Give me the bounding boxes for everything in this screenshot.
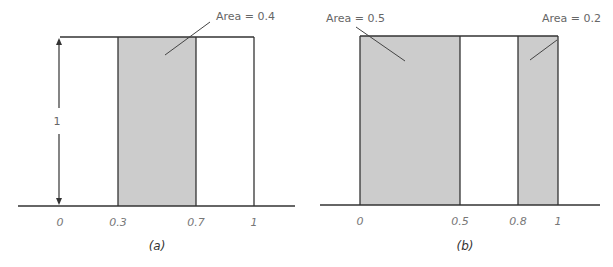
tick-1: 1 — [251, 216, 258, 229]
annotation-area-0.5: Area = 0.5 — [326, 12, 385, 25]
tick-1: 1 — [555, 215, 562, 228]
shaded-region-0-0.5 — [360, 36, 460, 205]
height-label: 1 — [54, 115, 61, 128]
shaded-region-0.3-0.7 — [118, 37, 196, 206]
panel-b: Area = 0.5 Area = 0.2 0 0.5 0.8 1 (b) — [320, 12, 601, 253]
shaded-region-0.8-1 — [518, 36, 558, 205]
tick-0: 0 — [357, 215, 364, 228]
tick-0: 0 — [57, 216, 64, 229]
tick-0.8: 0.8 — [509, 215, 527, 228]
panel-a: 1 Area = 0.4 0 0.3 0.7 1 (a) — [18, 10, 295, 253]
tick-0.3: 0.3 — [109, 216, 127, 229]
tick-0.5: 0.5 — [451, 215, 469, 228]
tick-0.7: 0.7 — [187, 216, 205, 229]
caption-b: (b) — [457, 239, 474, 253]
annotation-area-0.2: Area = 0.2 — [542, 12, 601, 25]
figure: 1 Area = 0.4 0 0.3 0.7 1 (a) Area = 0.5 … — [0, 0, 613, 267]
caption-a: (a) — [149, 239, 166, 253]
annotation-area-0.4: Area = 0.4 — [216, 10, 275, 23]
